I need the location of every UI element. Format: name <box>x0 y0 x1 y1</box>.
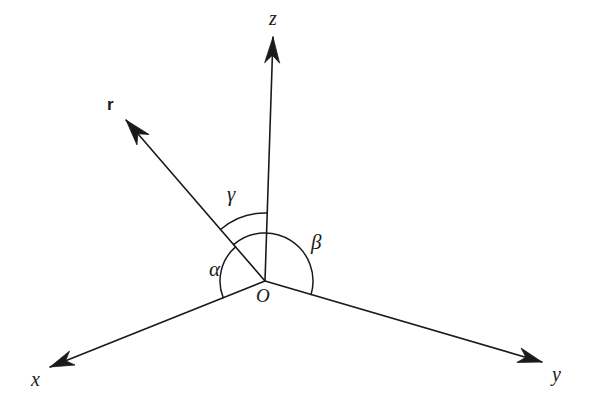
coordinate-axes-figure: x y z r O α β γ <box>0 0 590 407</box>
alpha-angle-arc <box>220 247 236 298</box>
axis-lines-group <box>50 37 542 367</box>
alpha-angle-label: α <box>209 259 220 280</box>
r-vector-arrowhead <box>126 120 149 145</box>
beta-angle-label: β <box>311 232 321 253</box>
beta-angle-arc <box>234 233 313 294</box>
gamma-angle-arc <box>221 213 268 230</box>
x-axis-label: x <box>31 369 40 389</box>
r-vector-line <box>126 120 265 281</box>
origin-label: O <box>256 286 270 305</box>
x-axis-line <box>50 281 265 367</box>
figure-canvas <box>0 0 590 407</box>
gamma-angle-label: γ <box>227 184 235 205</box>
r-vector-label: r <box>107 96 114 113</box>
z-axis-label: z <box>269 8 277 28</box>
y-axis-line <box>265 281 542 362</box>
y-axis-label: y <box>552 364 561 384</box>
arrow-heads-group <box>50 37 542 367</box>
z-axis-line <box>265 37 273 281</box>
